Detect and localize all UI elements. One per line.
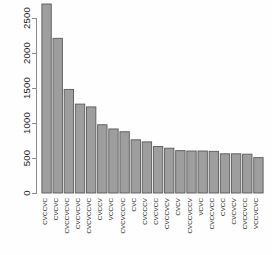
x-axis-tick-label: CVCVC (52, 198, 59, 221)
bar (254, 158, 263, 193)
y-axis: 05001000150020002500 (21, 7, 37, 196)
x-axis-tick-label: VCCVCVC (252, 198, 259, 229)
bar (120, 132, 129, 193)
bar (220, 154, 229, 193)
y-axis-tick-label: 2000 (21, 42, 32, 64)
x-axis-tick-label: CVCCVCVC (63, 198, 70, 234)
bar (42, 4, 51, 193)
x-axis-tick-label: CVCVCCVC (119, 198, 126, 234)
bar (231, 154, 240, 193)
x-axis-tick-label: VCVC (197, 198, 204, 216)
bars-group (42, 4, 263, 193)
bar (131, 140, 140, 193)
bar (243, 154, 252, 193)
bar (64, 89, 73, 193)
x-axis-tick-label: CVCCVCCV (186, 197, 193, 233)
bar (198, 151, 207, 193)
bar (109, 129, 118, 193)
x-axis-tick-label: CVCCVCV (163, 197, 170, 229)
bar (75, 104, 84, 193)
bar (86, 107, 95, 193)
x-axis-tick-label: CVCVCC (152, 198, 159, 225)
x-axis-tick-label: CVCVCCVC (85, 198, 92, 234)
bar (53, 38, 62, 193)
x-axis-tick-label: CVCVCVC (74, 198, 81, 229)
y-axis-ticks: 05001000150020002500 (21, 7, 37, 196)
x-axis-tick-labels: CVCCVCCVCVCCVCCVCVCCVCVCVCCVCVCCVCCVCCVV… (41, 197, 260, 233)
bar (187, 151, 196, 193)
y-axis-tick-label: 1000 (21, 112, 32, 134)
bar (98, 125, 107, 193)
y-axis-tick-label: 1500 (21, 77, 32, 99)
bar (176, 151, 185, 193)
x-axis-tick-label: CVCV (174, 197, 181, 215)
bar-chart-figure: 05001000150020002500 CVCCVCCVCVCCVCCVCVC… (0, 0, 272, 255)
x-axis-tick-label: CVC (130, 198, 137, 212)
bar (153, 146, 162, 193)
y-axis-tick-label: 0 (21, 190, 32, 195)
x-axis-tick-label: VCCVC (107, 198, 114, 221)
chart-canvas: 05001000150020002500 CVCCVCCVCVCCVCCVCVC… (0, 0, 272, 255)
x-axis-tick-label: CVCCCV (141, 197, 148, 225)
bar (165, 148, 174, 193)
x-axis-tick-label: CVCCV (96, 197, 103, 220)
x-axis-tick-label: CVCVCV (230, 197, 237, 224)
y-axis-tick-label: 500 (21, 150, 32, 166)
x-axis-tick-label: CVCC (219, 198, 226, 216)
x-axis-tick-label: CVCCVCC (241, 198, 248, 230)
x-axis-tick-label: CVCCVCC (208, 198, 215, 230)
bar (142, 142, 151, 193)
bar (209, 151, 218, 193)
x-axis-tick-label: CVCCVC (41, 198, 48, 225)
y-axis-tick-label: 2500 (21, 7, 32, 29)
